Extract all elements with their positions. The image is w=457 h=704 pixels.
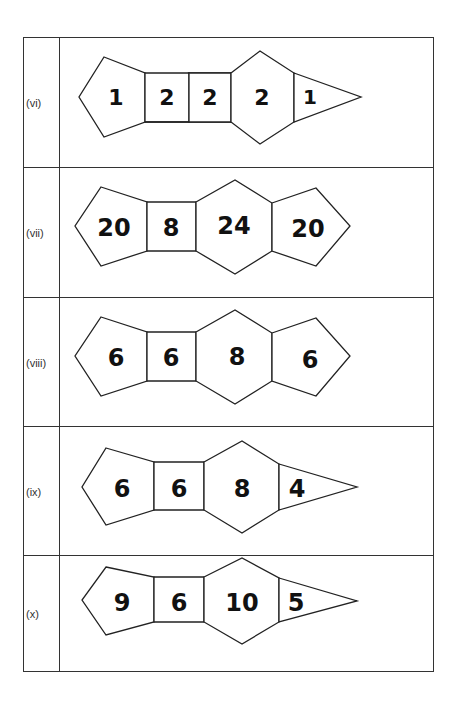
net-diagram: 9 6 10 5 xyxy=(24,556,435,672)
row-vi: (vi) 1 2 2 2 1 xyxy=(24,38,433,167)
face-value: 8 xyxy=(163,214,180,242)
face-value: 8 xyxy=(234,475,251,503)
net-diagram: 6 6 8 6 xyxy=(24,298,435,427)
face-value: 6 xyxy=(114,475,131,503)
nets-table: (vi) 1 2 2 2 1 (vii) 20 8 24 20 xyxy=(23,37,434,672)
row-ix: (ix) 6 6 8 4 xyxy=(24,427,433,556)
face-value: 6 xyxy=(108,344,125,372)
face-value: 9 xyxy=(114,589,131,617)
row-viii: (viii) 6 6 8 6 xyxy=(24,298,433,427)
face-value: 6 xyxy=(171,589,188,617)
face-value: 20 xyxy=(97,214,130,242)
face-value: 6 xyxy=(302,346,319,374)
face-value: 5 xyxy=(288,589,305,617)
face-value: 2 xyxy=(202,85,217,110)
face-value: 6 xyxy=(163,344,180,372)
net-diagram: 6 6 8 4 xyxy=(24,427,435,556)
face-value: 10 xyxy=(225,589,258,617)
face-value: 2 xyxy=(159,85,174,110)
face-value: 4 xyxy=(289,475,306,503)
face-value: 20 xyxy=(291,215,324,243)
face-value: 2 xyxy=(254,85,269,110)
face-value: 1 xyxy=(108,85,123,110)
net-diagram: 1 2 2 2 1 xyxy=(24,38,435,167)
face-value: 8 xyxy=(229,343,246,371)
face-value: 24 xyxy=(217,212,250,240)
face-value: 6 xyxy=(171,475,188,503)
row-x: (x) 9 6 10 5 xyxy=(24,556,433,672)
face-value: 1 xyxy=(303,85,317,109)
net-diagram: 20 8 24 20 xyxy=(24,168,435,297)
row-vii: (vii) 20 8 24 20 xyxy=(24,168,433,297)
